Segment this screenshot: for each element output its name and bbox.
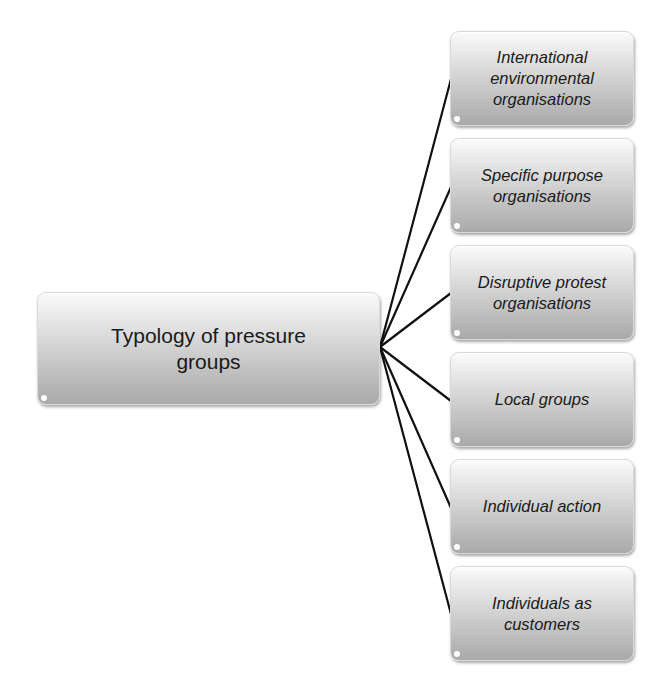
connector-line-6 — [380, 347, 451, 614]
connector-line-1 — [380, 79, 451, 347]
connector-line-3 — [380, 293, 451, 347]
child-node-disruptive-protest-organisations: Disruptive protest organisations — [450, 245, 634, 340]
child-node-label: Individual action — [483, 496, 601, 517]
child-node-label: Local groups — [495, 389, 589, 410]
child-node-international-environmental-organisations: International environmental organisation… — [450, 31, 634, 126]
child-node-label: Specific purpose organisations — [481, 165, 603, 207]
child-node-label: Disruptive protest organisations — [478, 272, 606, 314]
child-node-label: International environmental organisation… — [490, 47, 594, 110]
connector-line-5 — [380, 347, 451, 508]
child-node-local-groups: Local groups — [450, 352, 634, 447]
child-node-individual-action: Individual action — [450, 459, 634, 554]
child-node-individuals-as-customers: Individuals as customers — [450, 566, 634, 661]
child-node-specific-purpose-organisations: Specific purpose organisations — [450, 138, 634, 233]
root-node-label: Typology of pressure groups — [111, 323, 306, 375]
child-node-label: Individuals as customers — [492, 593, 592, 635]
connector-line-4 — [380, 347, 451, 401]
connector-line-2 — [380, 187, 451, 347]
root-node-typology-of-pressure-groups: Typology of pressure groups — [37, 292, 380, 405]
